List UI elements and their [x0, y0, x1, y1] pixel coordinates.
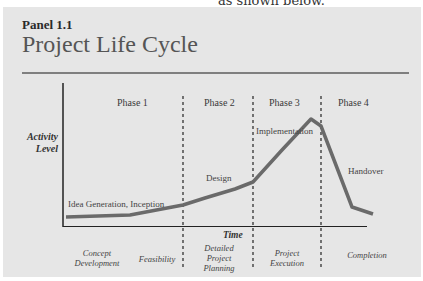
annotation-handover: Handover — [348, 166, 384, 176]
stage-completion: Completion — [332, 250, 402, 260]
annotation-idea: Idea Generation, Inception — [68, 199, 164, 209]
stage-4-line1: Project — [259, 248, 315, 258]
stage-concept-development: Concept Development — [62, 248, 132, 268]
annotation-design: Design — [206, 173, 232, 183]
stage-detailed-project-planning: Detailed Project Planning — [194, 243, 244, 273]
life-cycle-chart — [0, 0, 423, 281]
y-axis-label: Activity Level — [18, 131, 58, 155]
stage-project-execution: Project Execution — [259, 248, 315, 268]
stage-5-line1: Completion — [332, 250, 402, 260]
stage-3-line1: Detailed — [194, 243, 244, 253]
x-axis-label: Time — [223, 230, 243, 240]
y-axis-label-line2: Level — [18, 143, 58, 155]
phase-1-label: Phase 1 — [117, 97, 148, 108]
phase-3-label: Phase 3 — [269, 97, 300, 108]
stage-4-line2: Execution — [259, 258, 315, 268]
stage-2-line1: Feasibility — [133, 254, 181, 264]
stage-3-line2: Project — [194, 253, 244, 263]
stage-feasibility: Feasibility — [133, 254, 181, 264]
annotation-implementation: Implementation — [256, 126, 313, 136]
phase-4-label: Phase 4 — [338, 97, 369, 108]
y-axis-label-line1: Activity — [18, 131, 58, 143]
stage-1-line1: Concept — [62, 248, 132, 258]
phase-2-label: Phase 2 — [204, 97, 235, 108]
stage-1-line2: Development — [62, 258, 132, 268]
stage-3-line3: Planning — [194, 263, 244, 273]
